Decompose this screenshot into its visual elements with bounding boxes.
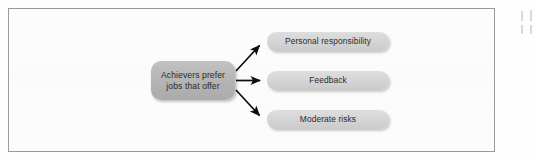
node-outcome-label: Personal responsibility bbox=[285, 36, 371, 46]
margin-tick bbox=[521, 25, 523, 34]
node-outcome-label: Feedback bbox=[309, 75, 347, 85]
figure-frame: Achievers prefer jobs that offer Persona… bbox=[8, 8, 495, 152]
margin-cutoff-marks bbox=[519, 10, 536, 36]
margin-tick bbox=[530, 25, 532, 34]
page-canvas: Achievers prefer jobs that offer Persona… bbox=[0, 0, 536, 160]
node-outcome-feedback: Feedback bbox=[267, 71, 389, 90]
node-outcome-personal-responsibility: Personal responsibility bbox=[267, 32, 389, 51]
margin-tick bbox=[521, 11, 523, 21]
margin-tick bbox=[530, 10, 532, 21]
node-outcome-label: Moderate risks bbox=[300, 114, 356, 124]
node-source-achievers: Achievers prefer jobs that offer bbox=[151, 61, 235, 100]
figure-background bbox=[9, 9, 494, 151]
node-outcome-moderate-risks: Moderate risks bbox=[267, 110, 389, 129]
node-source-label: Achievers prefer jobs that offer bbox=[161, 70, 225, 91]
